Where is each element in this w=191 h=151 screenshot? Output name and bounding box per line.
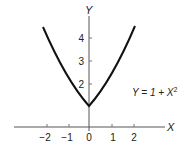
x-axis-label: X — [166, 121, 175, 133]
y-tick-label: 3 — [78, 56, 84, 67]
parabola-chart: −2 −1 0 1 2 2 3 4 X Y Y = 1 + X2 — [0, 0, 191, 151]
x-tick-label: 0 — [86, 132, 92, 143]
y-axis-label: Y — [85, 4, 93, 16]
x-tick-label: −2 — [39, 132, 51, 143]
y-tick-label: 2 — [78, 79, 84, 90]
x-tick-label: 2 — [131, 132, 137, 143]
equation-label: Y = 1 + X2 — [132, 86, 178, 98]
x-tick-label: 1 — [110, 132, 116, 143]
x-tick-label: −1 — [61, 132, 73, 143]
y-tick-label: 4 — [78, 33, 84, 44]
